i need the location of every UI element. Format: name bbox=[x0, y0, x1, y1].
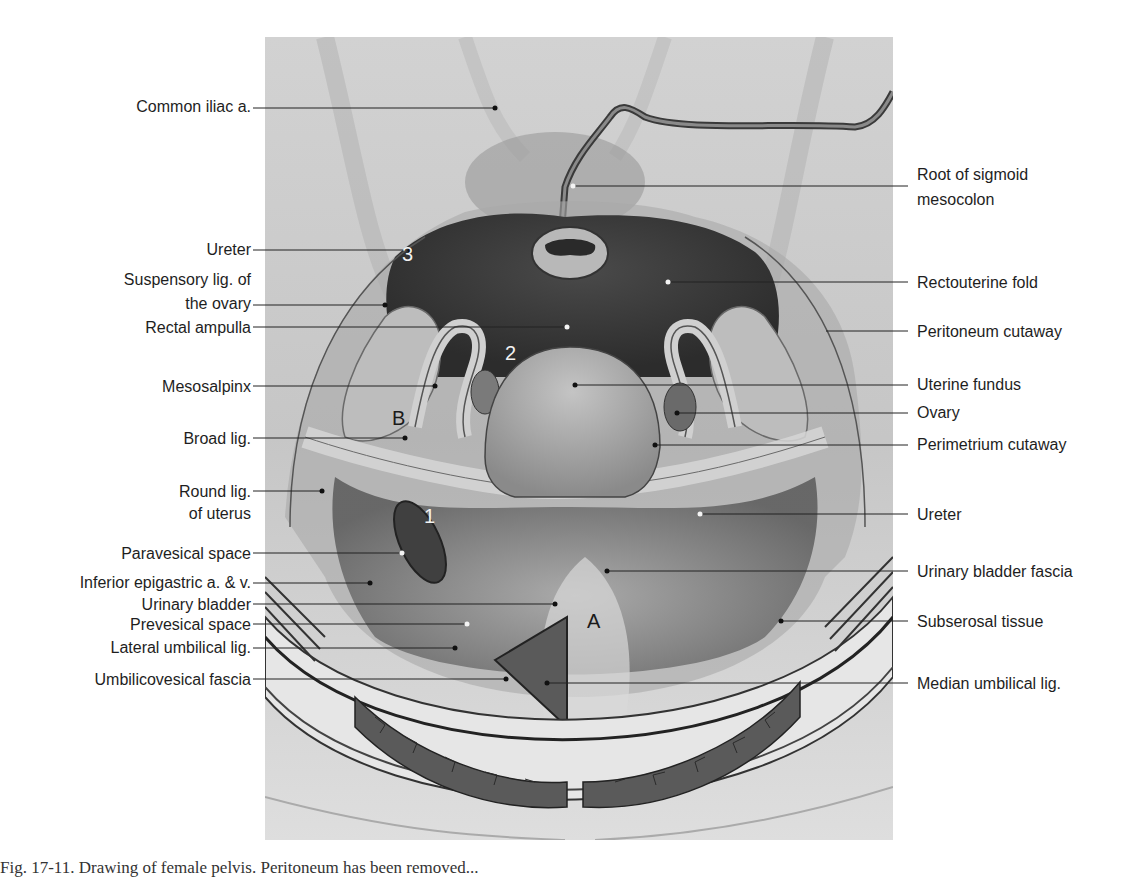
label-root-sigmoid-mesocolon-line2: mesocolon bbox=[917, 190, 994, 209]
figure-caption: Fig. 17-11. Drawing of female pelvis. Pe… bbox=[0, 858, 479, 878]
label-round-lig-line2: of uterus bbox=[189, 504, 251, 523]
label-ovary: Ovary bbox=[917, 403, 960, 422]
marker-b: B bbox=[392, 408, 405, 428]
label-suspensory-lig-ovary-line2: the ovary bbox=[185, 294, 251, 313]
label-rectouterine-fold: Rectouterine fold bbox=[917, 273, 1038, 292]
label-mesosalpinx: Mesosalpinx bbox=[162, 377, 251, 396]
label-broad-lig: Broad lig. bbox=[183, 429, 251, 448]
label-common-iliac-artery: Common iliac a. bbox=[136, 97, 251, 116]
marker-3: 3 bbox=[402, 244, 413, 264]
marker-2: 2 bbox=[505, 343, 516, 363]
label-paravesical-space: Paravesical space bbox=[121, 544, 251, 563]
label-median-umbilical-lig: Median umbilical lig. bbox=[917, 674, 1061, 693]
label-rectal-ampulla: Rectal ampulla bbox=[145, 318, 251, 337]
label-lateral-umbilical-lig: Lateral umbilical lig. bbox=[110, 638, 251, 657]
label-uterine-fundus: Uterine fundus bbox=[917, 375, 1021, 394]
label-round-lig-line1: Round lig. bbox=[179, 482, 251, 501]
label-umbilicovesical-fascia: Umbilicovesical fascia bbox=[95, 670, 252, 689]
label-urinary-bladder-fascia: Urinary bladder fascia bbox=[917, 562, 1073, 581]
label-suspensory-lig-ovary-line1: Suspensory lig. of bbox=[124, 270, 251, 289]
marker-1: 1 bbox=[424, 506, 435, 526]
label-urinary-bladder: Urinary bladder bbox=[142, 595, 251, 614]
label-peritoneum-cutaway: Peritoneum cutaway bbox=[917, 322, 1062, 341]
label-prevesical-space: Prevesical space bbox=[130, 615, 251, 634]
label-ureter-right: Ureter bbox=[917, 505, 961, 524]
marker-a: A bbox=[587, 611, 600, 631]
label-ureter-left: Ureter bbox=[207, 240, 251, 259]
label-root-sigmoid-mesocolon-line1: Root of sigmoid bbox=[917, 165, 1028, 184]
label-inferior-epigastric: Inferior epigastric a. & v. bbox=[80, 573, 251, 592]
label-perimetrium-cutaway: Perimetrium cutaway bbox=[917, 435, 1066, 454]
anatomical-illustration bbox=[265, 37, 893, 840]
label-subserosal-tissue: Subserosal tissue bbox=[917, 612, 1043, 631]
